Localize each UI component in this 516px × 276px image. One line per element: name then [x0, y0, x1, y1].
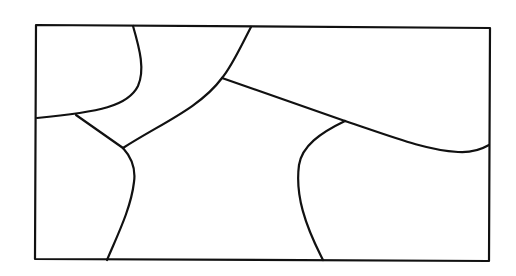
- top-left-region-boundary: [37, 26, 141, 118]
- right-region-boundary: [345, 121, 489, 152]
- center-right-curve: [298, 121, 345, 260]
- center-left-curve: [107, 148, 135, 260]
- outer-frame: [35, 25, 490, 261]
- central-upper-curve: [123, 27, 251, 148]
- region-partition-diagram: [0, 0, 516, 276]
- left-junction-connector: [76, 115, 123, 148]
- diagonal-divider: [222, 78, 345, 121]
